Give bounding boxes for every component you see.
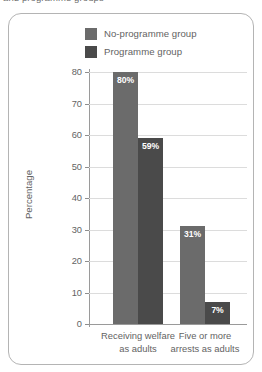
y-axis-tick xyxy=(85,261,89,262)
y-axis-tick xyxy=(85,198,89,199)
x-axis-label-line: arrests as adults xyxy=(150,343,260,356)
plot-area: 0102030405060708080%31%59%7% xyxy=(89,72,247,324)
bar: 59% xyxy=(138,138,163,324)
y-axis-tick xyxy=(85,72,89,73)
bar-value-label: 80% xyxy=(113,75,138,85)
y-axis-tick xyxy=(85,167,89,168)
bar: 80% xyxy=(113,72,138,324)
y-axis-tick xyxy=(85,135,89,136)
figure-frame: No-programme group Programme group Perce… xyxy=(8,13,254,365)
bar-value-label: 59% xyxy=(138,141,163,151)
y-axis-title: Percentage xyxy=(23,135,34,255)
y-axis-tick-label: 70 xyxy=(72,99,82,109)
y-axis-tick-label: 60 xyxy=(72,130,82,140)
y-axis-tick-label: 10 xyxy=(72,288,82,298)
x-axis-label-line: Five or more xyxy=(150,330,260,343)
figure-root: and programme groups No-programme group … xyxy=(0,0,262,372)
y-axis-tick-label: 30 xyxy=(72,225,82,235)
y-axis-tick-label: 20 xyxy=(72,256,82,266)
bar-value-label: 7% xyxy=(205,305,230,315)
x-axis-line xyxy=(89,324,247,325)
y-axis-tick xyxy=(85,324,89,325)
bar: 31% xyxy=(180,226,205,324)
caption-strip: and programme groups xyxy=(0,0,262,9)
y-axis-tick-label: 50 xyxy=(72,162,82,172)
bar-value-label: 31% xyxy=(180,229,205,239)
y-axis-tick-label: 0 xyxy=(77,319,82,329)
y-axis-tick-label: 80 xyxy=(72,67,82,77)
caption-text: and programme groups xyxy=(3,0,104,3)
y-axis-tick xyxy=(85,230,89,231)
y-axis-tick-label: 40 xyxy=(72,193,82,203)
x-axis-label-group-1: Five or morearrests as adults xyxy=(150,330,260,355)
y-axis-tick xyxy=(85,293,89,294)
bar: 7% xyxy=(205,302,230,324)
y-axis-tick xyxy=(85,104,89,105)
plot-wrapper: Percentage 0102030405060708080%31%59%7% … xyxy=(9,14,255,366)
